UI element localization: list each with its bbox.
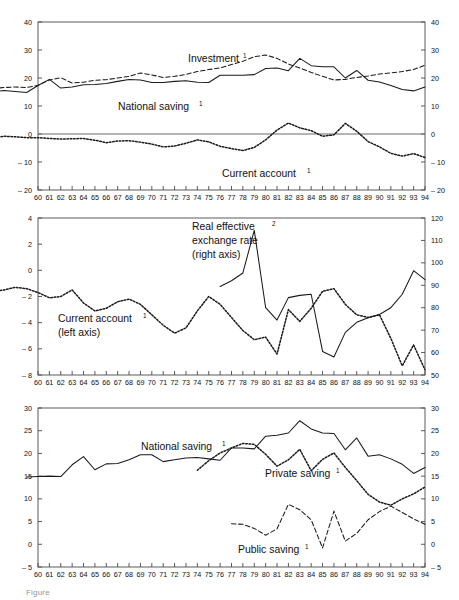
label-current-account-left: Current account 1 (left axis) [58, 312, 147, 338]
x-tick-label: 79 [250, 378, 258, 387]
x-tick-label: 75 [205, 378, 213, 387]
x-tick-label: 63 [68, 378, 76, 387]
x-tick-label: 85 [319, 193, 327, 202]
x-tick-label: 92 [398, 193, 406, 202]
x-tick-label: 70 [148, 193, 156, 202]
x-tick-label: 92 [398, 378, 406, 387]
y-tick-label: 20 [24, 449, 32, 458]
y-tick-label-right: 90 [431, 281, 439, 290]
y-tick-label: 0 [28, 266, 32, 275]
x-tick-label: 71 [159, 570, 167, 579]
y-tick-label-right: 40 [431, 18, 439, 27]
figure-caption: Figure [26, 588, 50, 597]
y-tick-label: 2 [28, 240, 32, 249]
x-tick-label: 65 [91, 570, 99, 579]
series-line [220, 230, 425, 357]
x-tick-label: 65 [91, 378, 99, 387]
label-ca-left-text: Current account [58, 313, 132, 324]
panel-middle: – 8– 6– 4– 20245060708090100110120606162… [0, 205, 459, 395]
x-tick-label: 76 [216, 193, 224, 202]
x-tick-label: 64 [80, 193, 88, 202]
label-national-saving-sup: 1 [199, 100, 203, 107]
x-tick-label: 73 [182, 378, 190, 387]
x-tick-label: 73 [182, 570, 190, 579]
x-tick-label: 91 [387, 570, 395, 579]
y-tick-label-right: 20 [431, 74, 439, 83]
label-national-saving-b-text: National saving [141, 441, 212, 452]
x-tick-label: 78 [239, 378, 247, 387]
x-tick-label: 82 [284, 193, 292, 202]
x-tick-label: 68 [125, 193, 133, 202]
y-tick-label-right: – 20 [431, 186, 445, 195]
x-tick-label: 60 [34, 570, 42, 579]
x-tick-label: 86 [330, 570, 338, 579]
x-tick-label: 66 [102, 193, 110, 202]
x-tick-label: 71 [159, 378, 167, 387]
y-tick-label: 10 [24, 494, 32, 503]
x-tick-label: 79 [250, 193, 258, 202]
y-tick-label-right: 5 [431, 517, 435, 526]
panel-top-svg: – 20– 10010203040– 20– 10010203040606162… [0, 0, 459, 205]
x-tick-label: 83 [296, 570, 304, 579]
y-tick-label-right: 15 [431, 472, 439, 481]
x-tick-label: 66 [102, 570, 110, 579]
label-national-saving: National saving 1 [118, 100, 203, 112]
label-public-saving-sup: 1 [305, 543, 309, 550]
y-tick-label-right: 100 [431, 258, 443, 267]
label-private-saving: Private saving 1 [265, 467, 340, 479]
x-tick-label: 75 [205, 193, 213, 202]
x-tick-label: 81 [273, 193, 281, 202]
x-tick-label: 60 [34, 378, 42, 387]
x-tick-label: 88 [353, 570, 361, 579]
label-national-saving-b-sup: 1 [222, 440, 226, 447]
x-tick-label: 91 [387, 193, 395, 202]
x-tick-label: 74 [193, 378, 201, 387]
x-tick-label: 64 [80, 570, 88, 579]
label-rer-line2: exchange rate [192, 235, 258, 246]
x-tick-label: 83 [296, 378, 304, 387]
x-tick-label: 67 [114, 193, 122, 202]
x-tick-label: 74 [193, 570, 201, 579]
x-tick-label: 68 [125, 378, 133, 387]
x-tick-label: 69 [136, 193, 144, 202]
x-tick-label: 87 [341, 193, 349, 202]
x-tick-label: 82 [284, 378, 292, 387]
label-national-saving-b: National saving 1 [141, 440, 226, 452]
x-tick-label: 80 [262, 570, 270, 579]
x-tick-label: 90 [375, 378, 383, 387]
y-tick-label-right: 50 [431, 371, 439, 380]
y-tick-label: 4 [28, 214, 32, 223]
x-tick-label: 89 [364, 193, 372, 202]
y-tick-label: – 8 [22, 371, 32, 380]
x-tick-label: 68 [125, 570, 133, 579]
y-tick-label: 10 [24, 102, 32, 111]
y-tick-label: 30 [24, 46, 32, 55]
x-tick-label: 77 [228, 570, 236, 579]
y-tick-label-right: 80 [431, 303, 439, 312]
x-tick-label: 88 [353, 193, 361, 202]
y-tick-label-right: 20 [431, 449, 439, 458]
y-tick-label-right: 110 [431, 236, 442, 245]
x-tick-label: 94 [421, 570, 429, 579]
label-current-account-sup: 1 [307, 167, 311, 174]
x-tick-label: 67 [114, 570, 122, 579]
label-investment-sup: 1 [243, 52, 247, 59]
series-line [232, 504, 426, 548]
label-private-saving-sup: 1 [336, 467, 340, 474]
x-tick-label: 61 [45, 378, 53, 387]
label-ca-left-sup: 1 [143, 312, 147, 319]
x-tick-label: 84 [307, 193, 315, 202]
x-tick-label: 61 [45, 570, 53, 579]
y-tick-label-right: 120 [431, 214, 443, 223]
x-tick-label: 93 [410, 570, 418, 579]
y-tick-label: 40 [24, 18, 32, 27]
x-tick-label: 60 [34, 193, 42, 202]
label-public-saving: Public saving 1 [238, 543, 309, 555]
label-national-saving-text: National saving [118, 101, 189, 112]
y-tick-label: 0 [28, 540, 32, 549]
y-tick-label-right: 30 [431, 46, 439, 55]
y-tick-label: – 4 [22, 318, 32, 327]
x-tick-label: 67 [114, 378, 122, 387]
y-tick-label-right: 25 [431, 426, 439, 435]
x-tick-label: 91 [387, 378, 395, 387]
